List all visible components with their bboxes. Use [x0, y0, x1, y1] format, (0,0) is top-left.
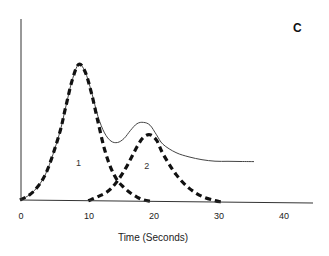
x-tick-labels: 010203040 — [18, 211, 289, 221]
x-tick-label: 0 — [18, 211, 23, 221]
x-tick-label: 10 — [84, 211, 94, 221]
chromatogram-chart: 010203040 C Time (Seconds) 12 — [0, 0, 329, 256]
x-tick-label: 40 — [279, 211, 289, 221]
peak-label-2: 2 — [144, 161, 149, 171]
plot-area — [20, 64, 254, 202]
panel-label: C — [293, 21, 302, 35]
component-2-curve — [88, 135, 221, 203]
x-tick-label: 20 — [149, 211, 159, 221]
x-axis — [20, 200, 313, 203]
x-axis-title: Time (Seconds) — [118, 232, 188, 243]
peak-label-1: 1 — [76, 158, 81, 168]
x-tick-label: 30 — [214, 211, 224, 221]
total-response-curve — [20, 64, 254, 200]
component-1-curve — [20, 64, 150, 201]
